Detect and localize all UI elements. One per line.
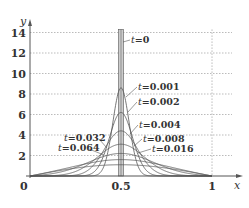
x-axis-arrow-icon [236,174,243,178]
y-tick-14: 14 [11,27,27,40]
y-tick-2: 2 [18,150,26,163]
initial-delta-spike [119,29,124,176]
leader-line-t-0.008 [134,139,142,146]
grid-lines [30,29,232,176]
leader-line-t-0.002 [128,102,137,112]
x-axis-label: x [234,179,241,192]
tick-labels: 246810121400.51 [11,27,216,194]
annotation-t-0.064: t=0.064 [58,142,100,153]
curve-annotations: t=0t=0.001t=0.002t=0.004t=0.008t=0.016t=… [58,34,194,155]
x-tick-0.5: 0.5 [111,180,130,193]
y-axis-arrow-icon [28,19,32,26]
y-tick-4: 4 [18,129,26,142]
y-tick-6: 6 [18,109,26,122]
x-tick-0: 0 [20,180,28,193]
heat-kernel-chart: y x 246810121400.51 t=0t=0.001t=0.002t=0… [0,0,249,208]
leader-line-t-0 [123,40,130,42]
y-tick-8: 8 [18,88,26,101]
leader-line-t-0.001 [126,87,137,97]
leader-line-t-0.016 [138,149,151,153]
leader-line-t-0.004 [130,125,138,134]
y-tick-10: 10 [11,68,27,81]
y-tick-12: 12 [11,47,26,60]
annotation-t-0.001: t=0.001 [138,81,180,92]
annotation-t-0.004: t=0.004 [139,119,181,130]
x-tick-1: 1 [208,180,216,193]
annotation-t-0.016: t=0.016 [152,143,194,154]
annotation-t-0.002: t=0.002 [138,96,180,107]
annotation-t-0: t=0 [131,34,150,45]
